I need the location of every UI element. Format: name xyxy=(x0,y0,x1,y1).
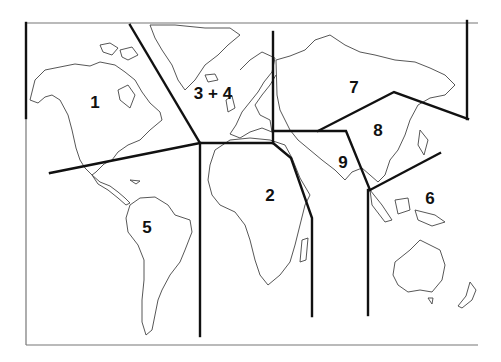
central-america-outline xyxy=(92,175,130,205)
zone-label-8: 8 xyxy=(373,121,382,141)
coastlines xyxy=(30,25,476,335)
zone-label-3-4: 3 + 4 xyxy=(194,84,232,104)
zone-label-5: 5 xyxy=(142,218,151,238)
map-frame xyxy=(26,23,478,345)
north-america-outline xyxy=(30,62,162,175)
australia-outline xyxy=(393,240,445,292)
zone-label-2: 2 xyxy=(265,186,274,206)
new-zealand-outline xyxy=(458,282,476,308)
zone-label-6: 6 xyxy=(425,189,434,209)
zone-boundaries xyxy=(26,21,468,336)
zone-label-1: 1 xyxy=(90,93,99,113)
south-america-outline xyxy=(126,197,192,335)
world-map xyxy=(0,0,501,362)
zone-label-7: 7 xyxy=(349,78,358,98)
zone-label-9: 9 xyxy=(338,153,347,173)
europe-outline xyxy=(230,52,276,138)
africa-outline xyxy=(208,138,310,285)
